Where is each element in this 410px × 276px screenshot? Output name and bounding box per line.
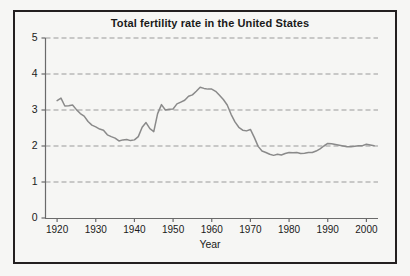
x-axis-tick-label: 1990	[308, 224, 348, 235]
x-axis-tick-label: 1980	[269, 224, 309, 235]
x-axis-tick-label: 1930	[76, 224, 116, 235]
x-axis-tick-label: 1950	[153, 224, 193, 235]
x-axis-tick-label: 2000	[346, 224, 386, 235]
x-axis-tick-label: 1970	[230, 224, 270, 235]
fertility-rate-line	[57, 87, 374, 155]
y-axis-tick-label: 2	[22, 139, 38, 151]
y-axis-tick-label: 3	[22, 103, 38, 115]
y-axis-tick-label: 1	[22, 175, 38, 187]
x-axis-tick-label: 1960	[192, 224, 232, 235]
chart-figure: Total fertility rate in the United State…	[0, 0, 410, 276]
y-axis-tick-label: 0	[22, 211, 38, 223]
x-axis-title: Year	[45, 238, 375, 250]
gridlines	[42, 38, 379, 218]
x-axis-tick-label: 1920	[37, 224, 77, 235]
y-axis-tick-label: 4	[22, 67, 38, 79]
x-axis-tick-label: 1940	[114, 224, 154, 235]
y-axis-tick-label: 5	[22, 31, 38, 43]
